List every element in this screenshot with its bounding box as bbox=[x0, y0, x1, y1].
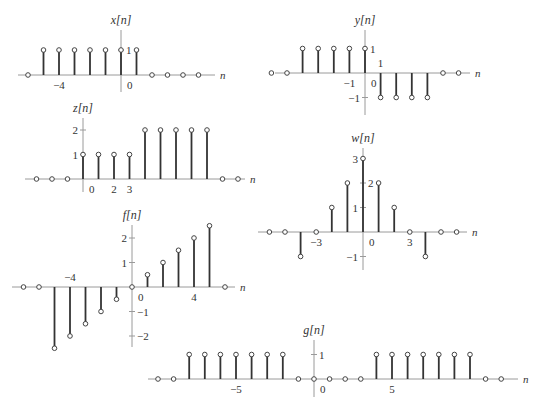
stem-marker bbox=[359, 377, 364, 382]
x-tick-label: 3 bbox=[407, 236, 413, 248]
plot-title: z[n] bbox=[72, 101, 93, 115]
x-tick-label: −1 bbox=[344, 77, 356, 89]
stem-marker bbox=[376, 181, 381, 186]
stem-marker bbox=[378, 95, 383, 100]
stem-marker bbox=[392, 205, 397, 210]
x-axis-label: n bbox=[475, 67, 481, 79]
x-tick-label: 0 bbox=[371, 77, 377, 89]
stem-marker bbox=[456, 71, 461, 76]
stem-marker bbox=[68, 334, 73, 339]
stem-marker bbox=[234, 352, 239, 357]
stem-marker bbox=[265, 352, 270, 357]
x-axis-label: n bbox=[220, 69, 226, 81]
stem-marker bbox=[439, 230, 444, 235]
stem-marker bbox=[65, 177, 70, 182]
x-tick-label: 4 bbox=[191, 291, 197, 303]
stem-marker bbox=[171, 377, 176, 382]
stem-marker bbox=[330, 205, 335, 210]
stem-marker bbox=[316, 46, 321, 51]
x-tick-label: 1 bbox=[378, 57, 384, 69]
stem-marker bbox=[158, 128, 163, 133]
stem-marker bbox=[192, 236, 197, 241]
stem-marker bbox=[405, 352, 410, 357]
x-tick-label: 0 bbox=[89, 183, 95, 195]
stem-marker bbox=[454, 230, 459, 235]
x-tick-label: 0 bbox=[320, 383, 326, 395]
stem-marker bbox=[161, 260, 166, 265]
stem-marker bbox=[223, 285, 228, 290]
stem-marker bbox=[283, 230, 288, 235]
stem-marker bbox=[390, 352, 395, 357]
stem-marker bbox=[143, 128, 148, 133]
stem-marker bbox=[499, 377, 504, 382]
stem-marker bbox=[181, 73, 186, 78]
x-tick-label: −4 bbox=[64, 271, 76, 283]
stem-marker bbox=[437, 352, 442, 357]
stem-marker bbox=[408, 230, 413, 235]
stem-marker bbox=[174, 128, 179, 133]
y-tick-label: −1 bbox=[346, 251, 358, 263]
plot-title: g[n] bbox=[303, 323, 325, 337]
stem-marker bbox=[165, 73, 170, 78]
stem-marker bbox=[57, 48, 62, 53]
stem-marker bbox=[21, 285, 26, 290]
y-tick-label: 3 bbox=[353, 153, 359, 165]
x-axis-label: n bbox=[240, 281, 246, 293]
stem-marker bbox=[114, 297, 119, 302]
stem-marker bbox=[134, 48, 139, 53]
stem-marker bbox=[441, 71, 446, 76]
stem-marker bbox=[269, 71, 274, 76]
plot-z: nz[n]12023 bbox=[25, 101, 256, 195]
stem-marker bbox=[281, 352, 286, 357]
stem-marker bbox=[314, 230, 319, 235]
x-tick-label: 0 bbox=[369, 236, 375, 248]
y-tick-label: 2 bbox=[73, 124, 79, 136]
stem-marker bbox=[37, 285, 42, 290]
y-tick-label: 1 bbox=[319, 349, 325, 361]
stem-marker bbox=[88, 48, 93, 53]
x-tick-label: −3 bbox=[310, 236, 322, 248]
stem-marker bbox=[81, 152, 86, 157]
stem-marker bbox=[34, 177, 39, 182]
y-tick-label: −1 bbox=[137, 306, 149, 318]
stem-marker bbox=[345, 181, 350, 186]
stem-marker bbox=[50, 177, 55, 182]
stem-marker bbox=[99, 309, 104, 314]
y-tick-label: 2 bbox=[368, 177, 374, 189]
stem-marker bbox=[145, 272, 150, 277]
y-tick-label: 2 bbox=[122, 232, 128, 244]
stem-marker bbox=[150, 73, 155, 78]
plot-x: nx[n]1−40 bbox=[18, 13, 226, 92]
stem-marker bbox=[347, 46, 352, 51]
x-tick-label: 0 bbox=[127, 79, 133, 91]
plot-title: f[n] bbox=[123, 208, 142, 222]
stem-marker bbox=[249, 352, 254, 357]
stem-marker bbox=[205, 128, 210, 133]
stem-marker bbox=[103, 48, 108, 53]
stem-marker bbox=[220, 177, 225, 182]
stem-marker bbox=[410, 95, 415, 100]
x-axis-label: n bbox=[523, 373, 529, 385]
x-axis-label: n bbox=[472, 226, 478, 238]
stem-marker bbox=[483, 377, 488, 382]
stem-marker bbox=[363, 46, 368, 51]
stem-marker bbox=[361, 156, 366, 161]
stem-marker bbox=[236, 177, 241, 182]
plot-f: nf[n]12−1−2−404 bbox=[12, 208, 246, 351]
x-tick-label: 3 bbox=[127, 183, 133, 195]
stem-marker bbox=[189, 128, 194, 133]
plot-title: w[n] bbox=[351, 131, 375, 145]
stem-marker bbox=[296, 377, 301, 382]
stem-marker bbox=[96, 152, 101, 157]
stem-marker bbox=[119, 48, 124, 53]
stem-marker bbox=[267, 230, 272, 235]
stem-marker bbox=[72, 48, 77, 53]
plot-title: x[n] bbox=[110, 13, 132, 27]
stem-marker bbox=[374, 352, 379, 357]
stem-marker bbox=[394, 95, 399, 100]
stem-marker bbox=[112, 152, 117, 157]
y-tick-label: 1 bbox=[126, 44, 132, 56]
stem-marker bbox=[425, 95, 430, 100]
stem-marker bbox=[312, 377, 317, 382]
stem-marker bbox=[127, 152, 132, 157]
